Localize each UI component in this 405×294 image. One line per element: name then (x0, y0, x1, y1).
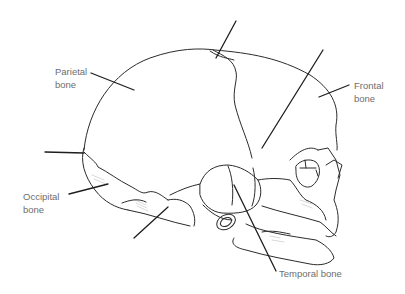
skull-vault-outline (84, 49, 337, 150)
leader-temporal (234, 185, 276, 271)
label-occipital-bone: Occipital bone (23, 191, 59, 216)
label-frontal-line1: Frontal (354, 80, 384, 93)
leader-top-fontanelle (216, 21, 236, 58)
coronal-suture (213, 50, 252, 158)
leader-frontal (319, 85, 349, 97)
label-occipital-line1: Occipital (23, 191, 59, 204)
label-temporal-line1: Temporal bone (279, 268, 342, 281)
label-frontal-bone: Frontal bone (354, 80, 384, 105)
leader-coronal-long (262, 50, 323, 148)
ear-canal (214, 211, 238, 233)
leader-occipital (69, 184, 108, 194)
skull-illustration (0, 0, 405, 294)
label-parietal-line1: Parietal (55, 66, 87, 79)
label-occipital-line2: bone (23, 204, 59, 217)
label-parietal-line2: bone (55, 79, 87, 92)
leader-lambdoid (45, 152, 84, 153)
skull-diagram: Parietal bone Frontal bone Occipital bon… (0, 0, 405, 294)
label-frontal-line2: bone (354, 93, 384, 106)
label-temporal-bone: Temporal bone (279, 268, 342, 281)
orbit-outline (296, 160, 319, 187)
label-parietal-bone: Parietal bone (55, 66, 87, 91)
leader-base (134, 207, 168, 238)
mandible-outline (233, 224, 334, 265)
leader-parietal (91, 73, 134, 90)
